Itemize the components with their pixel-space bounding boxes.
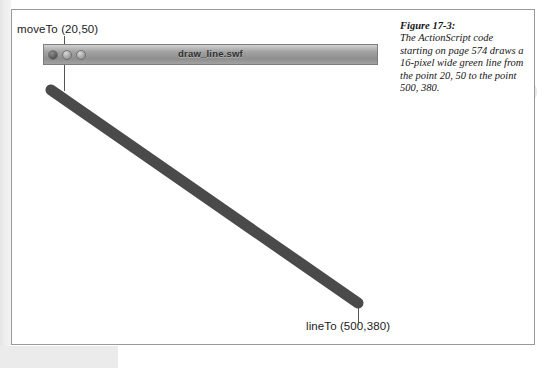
- swf-player-window[interactable]: draw_line.swf: [43, 44, 378, 65]
- scanned-page: moveTo (20,50) lineTo (500,380) draw_lin…: [0, 0, 550, 368]
- window-title-bar[interactable]: draw_line.swf: [43, 44, 378, 65]
- scan-edge-shadow-left: [0, 0, 11, 368]
- figure-caption: Figure 17-3: The ActionScript code start…: [400, 20, 528, 94]
- annotation-lineto-label: lineTo (500,380): [306, 320, 390, 332]
- annotation-lineto-leader-line: [358, 303, 359, 325]
- annotation-moveto-label: moveTo (20,50): [17, 23, 98, 35]
- figure-caption-title: Figure 17-3:: [400, 20, 528, 32]
- scan-edge-shadow-bottom: [0, 346, 118, 368]
- window-title-text: draw_line.swf: [44, 48, 377, 59]
- figure-caption-body: The ActionScript code starting on page 5…: [400, 32, 528, 94]
